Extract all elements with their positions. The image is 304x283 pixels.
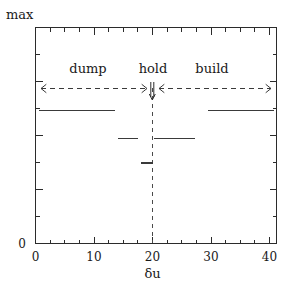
y-axis-max-label: max — [6, 7, 34, 22]
chart-figure: max 0 dump hold build 0 10 20 30 40 δu — [0, 0, 304, 283]
y-axis-ticks — [36, 28, 43, 244]
schedule-plot-svg: max 0 dump hold build 0 10 20 30 40 δu — [0, 0, 304, 283]
x-tick-label-40: 40 — [262, 250, 277, 264]
phase-label-hold: hold — [139, 61, 168, 76]
y-axis-zero-label: 0 — [18, 237, 26, 251]
build-phase-arrow — [159, 85, 271, 93]
x-tick-label-20: 20 — [145, 250, 160, 264]
y-axis-right-ticks — [270, 28, 277, 244]
phase-label-build: build — [195, 61, 228, 76]
plot-frame — [36, 28, 277, 244]
x-tick-label-0: 0 — [32, 250, 40, 264]
phase-label-dump: dump — [69, 61, 106, 76]
x-tick-label-10: 10 — [86, 250, 101, 264]
dump-phase-arrow — [41, 85, 147, 93]
data-series-schedule — [39, 111, 274, 164]
x-axis-top-major-ticks — [36, 28, 270, 35]
x-tick-label-30: 30 — [203, 250, 218, 264]
x-axis-title: δu — [144, 266, 160, 281]
